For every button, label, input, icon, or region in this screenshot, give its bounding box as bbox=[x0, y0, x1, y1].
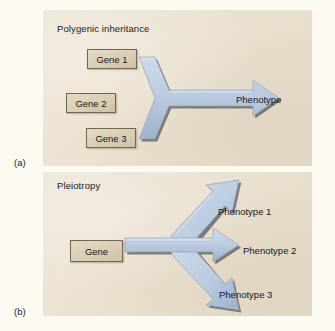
genetics-concept-figure: Polygenic inheritance Gene 1 Gene 2 Gene… bbox=[0, 0, 335, 331]
panel-polygenic-inheritance: Polygenic inheritance Gene 1 Gene 2 Gene… bbox=[43, 10, 312, 166]
panel-a-letter: (a) bbox=[14, 157, 26, 168]
gene-box-1[interactable]: Gene 1 bbox=[87, 49, 137, 69]
panel-b-title: Pleiotropy bbox=[57, 180, 100, 191]
gene-box-2[interactable]: Gene 2 bbox=[66, 93, 116, 113]
panel-pleiotropy: Pleiotropy Gene Phenotype 1 Phenotype 2 … bbox=[43, 172, 312, 316]
gene-box-3[interactable]: Gene 3 bbox=[86, 128, 136, 148]
phenotype-label-b-1: Phenotype 1 bbox=[218, 206, 271, 217]
panel-a-title: Polygenic inheritance bbox=[57, 23, 149, 34]
phenotype-label-a: Phenotype bbox=[236, 94, 281, 105]
phenotype-label-b-3: Phenotype 3 bbox=[219, 289, 272, 300]
gene-box-b[interactable]: Gene bbox=[70, 240, 123, 262]
panel-b-letter: (b) bbox=[14, 306, 26, 317]
phenotype-label-b-2: Phenotype 2 bbox=[243, 245, 296, 256]
